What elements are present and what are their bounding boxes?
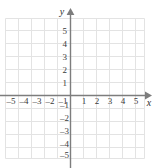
x-tick-label: –2 xyxy=(45,96,55,106)
coordinate-plane-figure: y x –5 –4 –3 –2 –1 1 2 3 4 5 5 4 3 2 1 –… xyxy=(0,0,156,168)
y-tick-label: –4 xyxy=(59,139,70,149)
x-axis-label: x xyxy=(146,97,152,108)
y-tick-label: –2 xyxy=(59,113,69,123)
figure-background xyxy=(0,0,156,168)
x-tick-label: –3 xyxy=(32,96,43,106)
x-tick-label: 3 xyxy=(108,96,113,106)
x-tick-label: 4 xyxy=(121,96,126,106)
y-tick-label: –1 xyxy=(59,100,69,110)
x-tick-label: 5 xyxy=(134,96,139,106)
y-tick-label: –5 xyxy=(59,150,70,160)
y-tick-label: 2 xyxy=(63,65,68,75)
x-tick-label: 1 xyxy=(82,96,87,106)
y-tick-label: 1 xyxy=(63,78,68,88)
coordinate-plane-svg: y x –5 –4 –3 –2 –1 1 2 3 4 5 5 4 3 2 1 –… xyxy=(0,0,156,168)
y-tick-label: 5 xyxy=(63,26,68,36)
y-axis-label: y xyxy=(59,6,65,17)
x-tick-label: 2 xyxy=(95,96,100,106)
y-tick-label: 3 xyxy=(63,52,68,62)
y-tick-label: –3 xyxy=(59,126,70,136)
x-tick-label: –5 xyxy=(6,96,17,106)
y-tick-label: 4 xyxy=(63,39,68,49)
x-tick-label: –4 xyxy=(19,96,30,106)
